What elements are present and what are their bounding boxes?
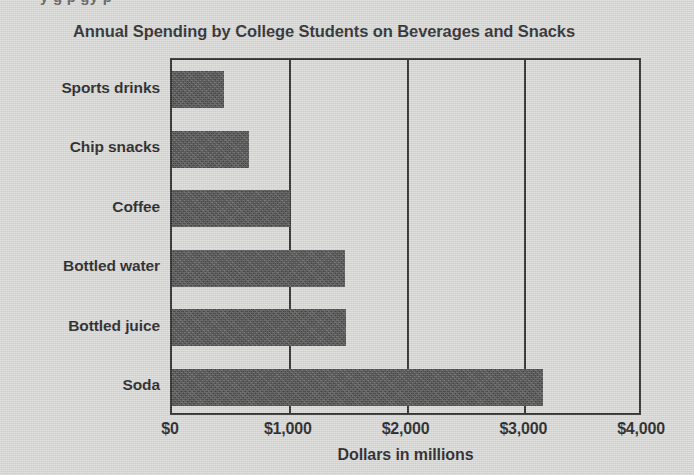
category-label-sports-drinks: Sports drinks xyxy=(0,80,160,96)
x-tick-label-3000: $3,000 xyxy=(478,420,568,438)
x-axis-title: Dollars in millions xyxy=(170,446,641,464)
category-label-bottled-juice: Bottled juice xyxy=(0,318,160,334)
chart-title: Annual Spending by College Students on B… xyxy=(0,22,694,41)
gridline-2000 xyxy=(407,60,409,413)
x-tick-label-0: $0 xyxy=(125,420,215,438)
bar-coffee xyxy=(172,190,290,227)
x-tick-label-1000: $1,000 xyxy=(243,420,333,438)
bar-sports-drinks xyxy=(172,71,224,108)
x-tick-label-4000: $4,000 xyxy=(596,420,686,438)
category-label-bottled-water: Bottled water xyxy=(0,258,160,274)
bar-chip-snacks xyxy=(172,131,249,168)
bar-bottled-water xyxy=(172,250,345,287)
bar-soda xyxy=(172,369,543,406)
category-label-soda: Soda xyxy=(0,377,160,393)
clipped-text-above-figure: y g p gy p xyxy=(0,0,694,8)
gridline-3000 xyxy=(524,60,526,413)
bar-bottled-juice xyxy=(172,309,346,346)
category-label-coffee: Coffee xyxy=(0,199,160,215)
x-tick-label-2000: $2,000 xyxy=(361,420,451,438)
plot-area xyxy=(170,58,641,415)
category-label-chip-snacks: Chip snacks xyxy=(0,139,160,155)
gridline-1000 xyxy=(289,60,291,413)
